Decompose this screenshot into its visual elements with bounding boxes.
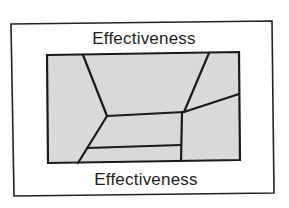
bottom-label: Effectiveness (83, 171, 209, 188)
partition-line-center-vertical (181, 112, 182, 161)
top-label: Effectiveness (81, 30, 207, 47)
